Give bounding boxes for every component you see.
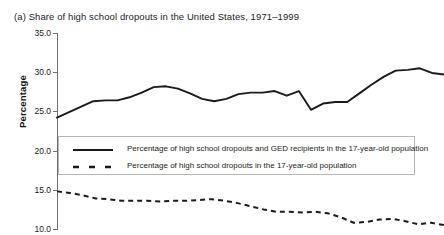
y-tick-label-30: 30.0 (34, 68, 51, 77)
legend-entry-dropouts: Percentage of high school dropouts in th… (59, 157, 414, 175)
plot-area (57, 33, 444, 229)
chart-figure: (a) Share of high school dropouts in the… (0, 0, 444, 235)
series-line-dropouts (57, 191, 444, 225)
y-axis-title: Percentage (17, 54, 28, 150)
chart-title: (a) Share of high school dropouts in the… (14, 11, 299, 23)
y-tick-label-15: 15.0 (34, 186, 51, 195)
legend-label-dropouts: Percentage of high school dropouts in th… (127, 160, 357, 171)
y-tick-label-10: 10.0 (34, 225, 51, 234)
legend-swatch-solid-line-icon (73, 148, 113, 151)
chart-legend: Percentage of high school dropouts and G… (58, 136, 415, 175)
y-tick-label-20: 20.0 (34, 147, 51, 156)
series-line-dropouts-and-ged (57, 68, 444, 117)
legend-entry-dropouts-and-ged: Percentage of high school dropouts and G… (59, 140, 414, 158)
y-tick-mark-10 (53, 229, 58, 230)
legend-swatch-dashed-line-icon (73, 165, 113, 168)
legend-label-dropouts-and-ged: Percentage of high school dropouts and G… (127, 143, 428, 154)
y-tick-label-35: 35.0 (34, 29, 51, 38)
y-tick-label-25: 25.0 (34, 107, 51, 116)
series-container (57, 33, 444, 229)
